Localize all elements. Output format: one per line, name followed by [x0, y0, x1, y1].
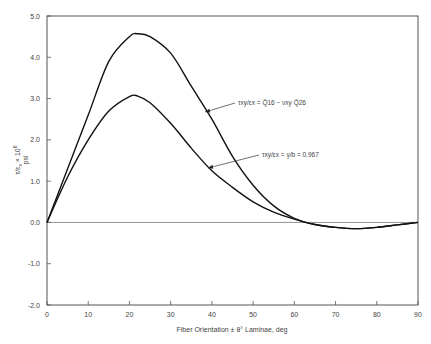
x-tick-label: 10 [84, 311, 92, 318]
y-tick-label: -1.0 [28, 260, 40, 267]
plot-border [47, 16, 418, 305]
data-curves [47, 33, 418, 228]
x-tick-label: 80 [373, 311, 381, 318]
series-upper-curve [47, 33, 418, 228]
x-tick-label: 0 [45, 311, 49, 318]
y-tick-label: 2.0 [30, 136, 40, 143]
x-axis-title: Fiber Orientation ± θ° Laminae, deg [177, 326, 288, 334]
x-axis-ticks: 0102030405060708090 [45, 301, 422, 318]
y-tick-label: 1.0 [30, 178, 40, 185]
y-tick-label: 3.0 [30, 95, 40, 102]
y-axis-title: τ/εx × 106 psi [12, 145, 30, 174]
x-tick-label: 40 [208, 311, 216, 318]
x-tick-label: 70 [332, 311, 340, 318]
x-tick-label: 90 [414, 311, 422, 318]
annotation-lower-curve: τxy/εx = γ/b = 0.967 [262, 151, 319, 159]
annotations: τxy/εx = Q̄16 − νxy Q̄26τxy/εx = γ/b = 0… [205, 99, 319, 169]
chart: -2.0-1.00.01.02.03.04.05.0 0102030405060… [0, 0, 431, 344]
plot-frame [47, 16, 418, 305]
y-axis-units: psi [22, 155, 30, 164]
x-tick-label: 60 [290, 311, 298, 318]
y-tick-label: 0.0 [30, 219, 40, 226]
y-axis-ticks: -2.0-1.00.01.02.03.04.05.0 [28, 13, 51, 309]
y-tick-label: 4.0 [30, 54, 40, 61]
y-axis-title-main: τ/ε [14, 167, 21, 175]
y-tick-label: -2.0 [28, 302, 40, 309]
x-tick-label: 50 [249, 311, 257, 318]
x-tick-label: 20 [126, 311, 134, 318]
y-tick-label: 5.0 [30, 13, 40, 20]
annotation-upper-curve: τxy/εx = Q̄16 − νxy Q̄26 [238, 99, 306, 107]
x-tick-label: 30 [167, 311, 175, 318]
